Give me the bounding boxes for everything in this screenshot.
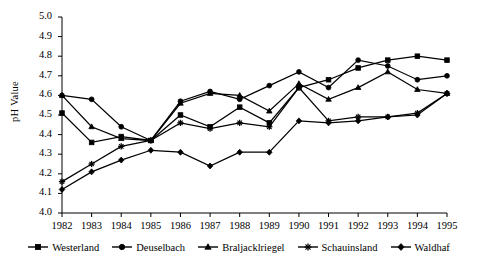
legend-marker-triangle-icon (197, 241, 219, 253)
data-point-circle (415, 77, 420, 82)
legend-item-waldhaf[interactable]: Waldhaf (390, 241, 450, 253)
series-braljacklriegel (59, 69, 450, 142)
legend-item-schauinsland[interactable]: Schauinsland (297, 241, 378, 253)
data-point-diamond (118, 157, 124, 163)
data-point-circle (89, 97, 94, 102)
data-point-circle (119, 124, 124, 129)
data-point-square (178, 113, 183, 118)
data-point-square (89, 140, 94, 145)
legend-label: Deuselbach (136, 242, 185, 253)
data-point-circle (297, 69, 302, 74)
legend-marker-diamond-icon (390, 241, 412, 253)
legend-marker-square-icon (27, 241, 49, 253)
data-point-diamond (178, 149, 184, 155)
data-point-square (60, 111, 65, 116)
series-schauinsland (59, 84, 450, 184)
data-point-circle (119, 244, 124, 249)
ph-value-line-chart: pH Value 5.04.94.84.74.64.54.44.34.24.14… (0, 0, 477, 266)
data-point-star (266, 124, 272, 130)
data-point-star (207, 126, 213, 132)
data-point-triangle (385, 69, 391, 74)
chart-legend: WesterlandDeuselbachBraljacklriegelSchau… (0, 241, 477, 253)
data-point-diamond (59, 186, 65, 192)
data-point-star (89, 161, 95, 167)
data-point-star (304, 243, 311, 250)
data-point-square (356, 66, 361, 71)
data-point-star (59, 179, 65, 185)
data-point-square (385, 58, 390, 63)
data-point-circle (445, 73, 450, 78)
data-point-circle (356, 58, 361, 63)
legend-marker-circle-icon (111, 241, 133, 253)
x-axis-ticks (62, 213, 447, 217)
data-point-star (296, 84, 302, 90)
legend-item-westerland[interactable]: Westerland (27, 241, 99, 253)
legend-label: Schauinsland (322, 242, 378, 253)
data-point-circle (385, 64, 390, 69)
data-point-star (118, 143, 124, 149)
data-point-circle (267, 83, 272, 88)
legend-label: Westerland (52, 242, 99, 253)
data-point-diamond (237, 149, 243, 155)
data-point-star (237, 120, 243, 126)
data-point-square (237, 105, 242, 110)
series-waldhaf (59, 90, 450, 192)
data-point-diamond (397, 244, 403, 251)
data-point-square (415, 54, 420, 59)
legend-item-deuselbach[interactable]: Deuselbach (111, 241, 185, 253)
data-point-star (177, 120, 183, 126)
data-point-diamond (89, 169, 95, 175)
plot-area (0, 0, 477, 266)
series-deuselbach (60, 58, 450, 143)
data-point-square (326, 77, 331, 82)
data-point-diamond (207, 163, 213, 169)
legend-label: Braljacklriegel (222, 242, 284, 253)
data-point-square (445, 58, 450, 63)
legend-label: Waldhaf (415, 242, 450, 253)
data-point-star (148, 137, 154, 143)
data-point-circle (326, 85, 331, 90)
legend-marker-star-icon (297, 241, 319, 253)
data-point-square (36, 244, 41, 249)
legend-item-braljacklriegel[interactable]: Braljacklriegel (197, 241, 284, 253)
data-point-diamond (148, 147, 154, 153)
